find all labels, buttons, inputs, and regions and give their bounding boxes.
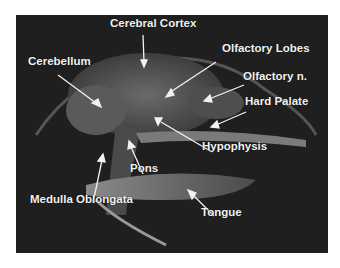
label-tongue: Tongue [201, 206, 242, 218]
label-medulla-oblongata: Medulla Oblongata [30, 193, 133, 205]
label-hard-palate: Hard Palate [245, 95, 308, 107]
label-cerebral-cortex: Cerebral Cortex [110, 17, 196, 29]
label-hypophysis: Hypophysis [202, 140, 267, 152]
label-olfactory-nerve: Olfactory n. [243, 70, 307, 82]
mri-image: Cerebral Cortex Cerebellum Olfactory Lob… [16, 15, 328, 253]
label-olfactory-lobes: Olfactory Lobes [222, 42, 310, 54]
label-cerebellum: Cerebellum [28, 55, 91, 67]
label-pons: Pons [130, 162, 158, 174]
